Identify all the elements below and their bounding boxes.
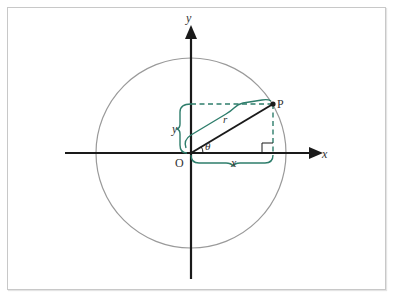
right-angle-marker [262,143,273,153]
y-axis-label: y [185,11,192,25]
r-brace [185,100,271,148]
y-brace-label: y [171,122,178,136]
y-brace [177,104,191,153]
x-axis-arrow-icon [309,147,323,159]
point-p-marker [270,101,275,106]
origin-label: O [175,156,184,170]
point-label: P [277,97,284,111]
y-axis-arrow-icon [185,25,197,39]
x-brace-label: x [230,156,237,170]
polar-diagram: y x O P r θ x y [0,0,395,297]
radius-line [191,104,273,153]
theta-label: θ [205,140,211,152]
x-axis-label: x [321,147,328,161]
radius-label: r [223,113,228,125]
